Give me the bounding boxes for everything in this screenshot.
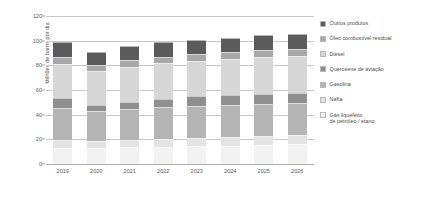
legend: Outros produtosÓleo combustível residual… <box>320 20 426 134</box>
y-tick-label-0: 0 <box>39 161 42 167</box>
y-tick-mark-0 <box>42 164 45 165</box>
y-tick-label-60: 60 <box>36 87 42 93</box>
bar-segment <box>154 99 173 108</box>
bars: 20192020202120222023202420252026 <box>46 16 314 164</box>
bar-segment <box>154 139 173 147</box>
bar-segment <box>120 147 139 164</box>
legend-item[interactable]: Gás liquefeito de petróleo / etano <box>320 112 426 125</box>
bar-segment <box>221 146 240 165</box>
bar-segment <box>254 104 273 136</box>
bar-segment <box>154 42 173 57</box>
legend-item[interactable]: Óleo combustível residual <box>320 35 426 42</box>
bar-segment <box>87 148 106 164</box>
y-tick-label-20: 20 <box>36 136 42 142</box>
y-tick-mark-100 <box>42 40 45 41</box>
y-tick-label-100: 100 <box>33 38 42 44</box>
legend-item[interactable]: Nafta <box>320 96 426 103</box>
x-tick-label-2025: 2025 <box>247 168 281 174</box>
stacked-bar-2024[interactable] <box>221 38 240 164</box>
stacked-bar-2021[interactable] <box>120 46 139 164</box>
x-tick-label-2023: 2023 <box>180 168 214 174</box>
stacked-bar-2023[interactable] <box>187 40 206 164</box>
bar-segment <box>254 136 273 145</box>
legend-label: Diesel <box>330 51 345 58</box>
legend-label: Nafta <box>330 96 343 103</box>
bar-segment <box>87 71 106 105</box>
stacked-bar-2026[interactable] <box>288 34 307 164</box>
bar-segment <box>53 64 72 99</box>
bar-segment <box>221 95 240 105</box>
bar-segment <box>288 56 307 92</box>
legend-item[interactable]: Outros produtos <box>320 20 426 27</box>
legend-swatch-icon <box>320 112 326 118</box>
bar-segment <box>187 96 206 105</box>
bar-segment <box>221 59 240 95</box>
bar-segment <box>187 54 206 61</box>
bar-segment <box>120 109 139 140</box>
bar-group-2021: 2021 <box>113 16 147 164</box>
plot-area: 020406080100120 201920202021202220232024… <box>46 16 314 180</box>
y-tick-label-120: 120 <box>33 13 42 19</box>
legend-swatch-icon <box>320 36 326 42</box>
bar-segment <box>221 105 240 137</box>
bar-segment <box>288 34 307 49</box>
stacked-bar-chart: Milhões de barris por dia 02040608010012… <box>0 0 428 203</box>
bar-segment <box>120 102 139 109</box>
bar-segment <box>288 93 307 103</box>
y-tick-mark-60 <box>42 90 45 91</box>
gridline-0 <box>46 164 314 165</box>
y-tick-mark-120 <box>42 16 45 17</box>
legend-item[interactable]: Gasolina <box>320 81 426 88</box>
x-tick-label-2022: 2022 <box>147 168 181 174</box>
legend-label: Gasolina <box>330 81 351 88</box>
y-tick-mark-20 <box>42 139 45 140</box>
bar-group-2025: 2025 <box>247 16 281 164</box>
bar-segment <box>187 61 206 96</box>
x-tick-label-2019: 2019 <box>46 168 80 174</box>
bar-segment <box>254 145 273 164</box>
bar-segment <box>53 148 72 164</box>
y-tick-label-40: 40 <box>36 112 42 118</box>
bar-segment <box>254 35 273 50</box>
legend-swatch-icon <box>320 97 326 103</box>
bar-segment <box>288 135 307 144</box>
bar-segment <box>53 42 72 57</box>
legend-swatch-icon <box>320 82 326 88</box>
stacked-bar-2022[interactable] <box>154 42 173 164</box>
bar-segment <box>154 147 173 164</box>
stacked-bar-2025[interactable] <box>254 35 273 164</box>
bar-segment <box>120 67 139 102</box>
stacked-bar-2020[interactable] <box>87 52 106 164</box>
bar-segment <box>254 50 273 57</box>
bar-group-2024: 2024 <box>214 16 248 164</box>
bar-group-2019: 2019 <box>46 16 80 164</box>
bar-segment <box>154 107 173 139</box>
bar-segment <box>187 138 206 146</box>
legend-item[interactable]: Diesel <box>320 51 426 58</box>
bar-segment <box>120 140 139 147</box>
legend-label: Óleo combustível residual <box>330 35 392 42</box>
legend-swatch-icon <box>320 66 326 72</box>
bar-segment <box>53 98 72 107</box>
y-tick-mark-80 <box>42 65 45 66</box>
bar-segment <box>53 108 72 140</box>
bar-segment <box>254 57 273 94</box>
x-tick-label-2020: 2020 <box>80 168 114 174</box>
legend-swatch-icon <box>320 21 326 27</box>
bar-segment <box>288 49 307 56</box>
bar-group-2020: 2020 <box>80 16 114 164</box>
bar-group-2022: 2022 <box>147 16 181 164</box>
bar-segment <box>221 52 240 59</box>
stacked-bar-2019[interactable] <box>53 42 72 164</box>
bar-group-2026: 2026 <box>281 16 315 164</box>
bar-segment <box>87 111 106 141</box>
bar-segment <box>120 46 139 60</box>
bar-segment <box>187 146 206 164</box>
bar-segment <box>187 40 206 55</box>
legend-item[interactable]: Querosene de aviação <box>320 66 426 73</box>
bar-segment <box>221 38 240 53</box>
x-tick-label-2021: 2021 <box>113 168 147 174</box>
bar-segment <box>221 137 240 145</box>
legend-label: Gás liquefeito de petróleo / etano <box>330 112 375 125</box>
y-tick-label-80: 80 <box>36 62 42 68</box>
